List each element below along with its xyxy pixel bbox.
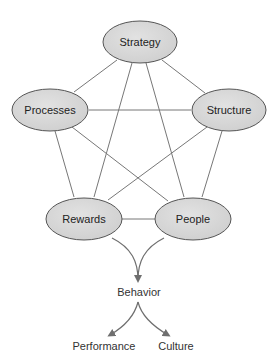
node-label: Structure	[207, 104, 252, 116]
edge-strategy-structure	[162, 60, 205, 93]
edge-processes-rewards	[55, 131, 74, 197]
performance-label: Performance	[73, 340, 136, 352]
arrow-behavior-performance	[110, 302, 138, 335]
star-model-diagram: Strategy Processes Structure Rewards Peo…	[0, 0, 278, 364]
edge-structure-people	[202, 131, 222, 197]
edge-strategy-people	[146, 63, 184, 197]
behavior-label: Behavior	[117, 286, 161, 298]
node-label: Strategy	[120, 36, 161, 48]
node-structure: Structure	[192, 89, 266, 131]
node-label: Processes	[24, 104, 76, 116]
node-strategy: Strategy	[103, 21, 177, 63]
edge-processes-people	[72, 127, 168, 201]
culture-label: Culture	[158, 340, 193, 352]
edges	[55, 60, 222, 219]
node-people: People	[155, 198, 231, 240]
node-rewards: Rewards	[46, 198, 122, 240]
node-processes: Processes	[12, 89, 88, 131]
edge-structure-rewards	[108, 127, 207, 200]
arrow-rewards-behavior	[112, 238, 138, 280]
edge-strategy-rewards	[94, 63, 132, 197]
arrow-people-behavior	[138, 238, 164, 280]
edge-strategy-processes	[74, 60, 117, 92]
node-label: Rewards	[62, 213, 106, 225]
node-label: People	[176, 213, 210, 225]
arrow-behavior-culture	[138, 302, 168, 335]
